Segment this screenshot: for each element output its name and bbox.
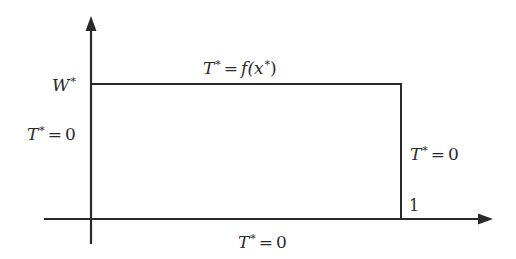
right-sup: * bbox=[422, 144, 428, 157]
top-var: T bbox=[203, 58, 214, 78]
x-one-text: 1 bbox=[409, 196, 419, 215]
w-star-label: W* bbox=[52, 77, 76, 94]
top-eq: = bbox=[224, 58, 238, 78]
right-eq: = bbox=[431, 144, 445, 164]
bottom-boundary-label: T*=0 bbox=[238, 234, 287, 251]
left-boundary-label: T*=0 bbox=[27, 126, 76, 143]
top-rhs: f(x bbox=[241, 58, 264, 78]
bottom-eq: = bbox=[259, 232, 273, 252]
w-var: W bbox=[52, 75, 69, 95]
boundary-condition-diagram: W* T*=f(x*) T*=0 T*=0 1 T*=0 bbox=[0, 0, 516, 259]
left-sup: * bbox=[39, 124, 45, 137]
left-var: T bbox=[27, 124, 38, 144]
right-boundary-label: T*=0 bbox=[410, 146, 459, 163]
x-one-label: 1 bbox=[409, 198, 419, 214]
bottom-var: T bbox=[238, 232, 249, 252]
left-eq: = bbox=[48, 124, 62, 144]
top-sup: * bbox=[215, 58, 221, 71]
top-boundary-label: T*=f(x*) bbox=[203, 60, 277, 77]
right-var: T bbox=[410, 144, 421, 164]
left-rhs: 0 bbox=[65, 124, 76, 144]
w-sup: * bbox=[70, 75, 76, 88]
bottom-sup: * bbox=[250, 232, 256, 245]
right-rhs: 0 bbox=[448, 144, 459, 164]
y-axis-arrow-icon bbox=[86, 16, 97, 31]
x-axis-arrow-icon bbox=[478, 214, 493, 225]
top-rhs-close: ) bbox=[270, 58, 277, 78]
bottom-rhs: 0 bbox=[276, 232, 287, 252]
diagram-canvas bbox=[0, 0, 516, 259]
